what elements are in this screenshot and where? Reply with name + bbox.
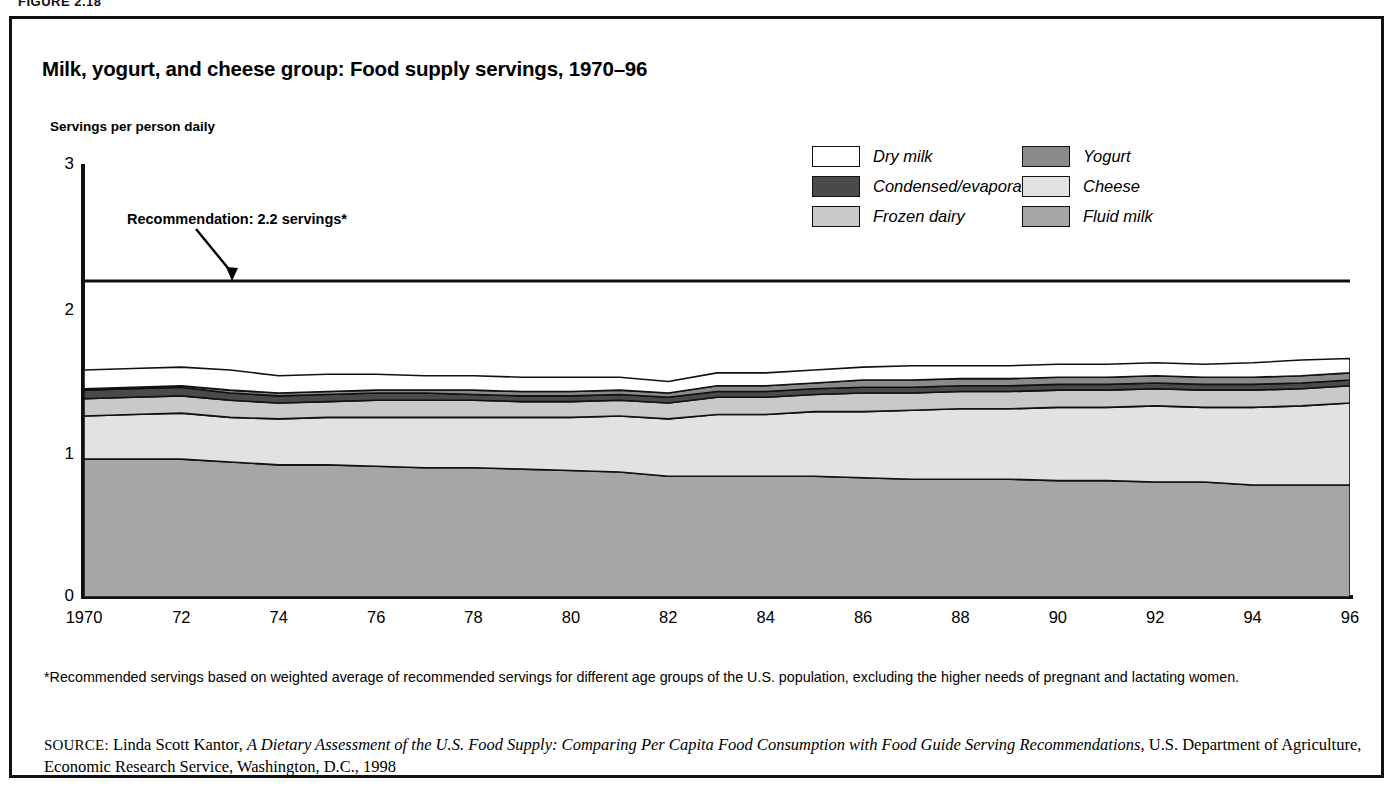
legend-label: Frozen dairy <box>873 207 965 226</box>
legend-row: Condensed/evaporatedCheese <box>812 171 1262 201</box>
legend: Dry milkYogurtCondensed/evaporatedCheese… <box>812 141 1262 231</box>
source-prefix: SOURCE: <box>44 737 109 753</box>
legend-row: Dry milkYogurt <box>812 141 1262 171</box>
x-tick-label-1972: 72 <box>172 608 190 627</box>
legend-swatch-icon <box>812 176 860 197</box>
legend-swatch-icon <box>1022 176 1070 197</box>
y-tick-label-3: 3 <box>34 154 74 174</box>
x-tick-label-1996: 96 <box>1341 608 1359 627</box>
legend-item-condensed-evaporated[interactable]: Condensed/evaporated <box>812 176 1022 197</box>
y-tick-label-1: 1 <box>34 444 74 464</box>
x-tick-label-1992: 92 <box>1146 608 1164 627</box>
x-tick-label-1970: 1970 <box>66 608 103 627</box>
x-tick-label-1976: 76 <box>367 608 385 627</box>
x-tick-label-1994: 94 <box>1243 608 1261 627</box>
legend-label: Fluid milk <box>1083 207 1153 226</box>
x-tick-label-1978: 78 <box>464 608 482 627</box>
figure-label: FIGURE 2.18 <box>18 0 102 9</box>
legend-item-fluid-milk[interactable]: Fluid milk <box>1022 206 1232 227</box>
footnote: *Recommended servings based on weighted … <box>44 668 1374 687</box>
legend-label: Yogurt <box>1083 147 1131 166</box>
legend-swatch-icon <box>812 206 860 227</box>
chart-title: Milk, yogurt, and cheese group: Food sup… <box>42 57 647 81</box>
y-axis-title: Servings per person daily <box>50 119 215 134</box>
legend-label: Dry milk <box>873 147 933 166</box>
legend-item-dry-milk[interactable]: Dry milk <box>812 146 1022 167</box>
legend-swatch-icon <box>812 146 860 167</box>
x-tick-label-1980: 80 <box>562 608 580 627</box>
y-tick-label-0: 0 <box>34 586 74 606</box>
legend-item-cheese[interactable]: Cheese <box>1022 176 1232 197</box>
source-author: Linda Scott Kantor, <box>109 735 247 754</box>
legend-swatch-icon <box>1022 146 1070 167</box>
legend-label: Condensed/evaporated <box>873 177 1045 196</box>
x-tick-label-1986: 86 <box>854 608 872 627</box>
legend-swatch-icon <box>1022 206 1070 227</box>
x-tick-label-1988: 88 <box>951 608 969 627</box>
legend-label: Cheese <box>1083 177 1140 196</box>
source-title: A Dietary Assessment of the U.S. Food Su… <box>247 735 1145 754</box>
legend-item-yogurt[interactable]: Yogurt <box>1022 146 1232 167</box>
x-tick-label-1984: 84 <box>757 608 775 627</box>
y-tick-label-2: 2 <box>34 300 74 320</box>
figure-frame: Milk, yogurt, and cheese group: Food sup… <box>9 16 1384 778</box>
recommendation-arrow-icon <box>192 225 272 287</box>
x-tick-label-1982: 82 <box>659 608 677 627</box>
x-tick-label-1990: 90 <box>1049 608 1067 627</box>
legend-item-frozen-dairy[interactable]: Frozen dairy <box>812 206 1022 227</box>
x-tick-label-1974: 74 <box>270 608 288 627</box>
legend-row: Frozen dairyFluid milk <box>812 201 1262 231</box>
source-note: SOURCE: Linda Scott Kantor, A Dietary As… <box>44 734 1374 779</box>
